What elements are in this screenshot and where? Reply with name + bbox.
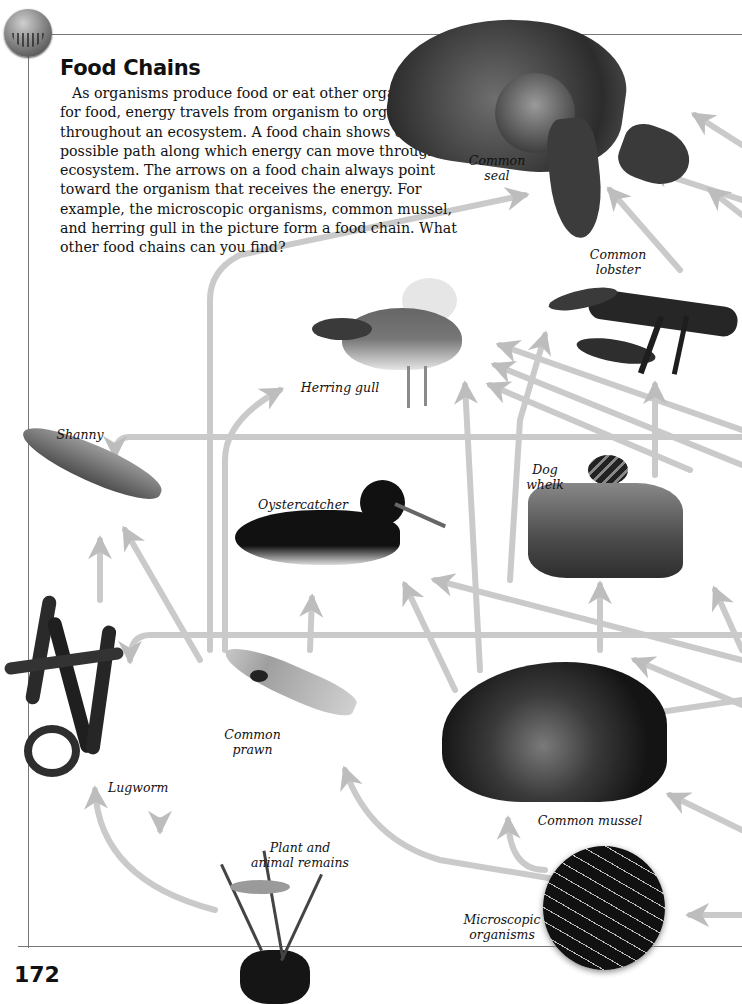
label-dog-whelk: Dogwhelk	[520, 462, 570, 492]
label-line: Common	[224, 727, 280, 742]
label-line: Common mussel	[538, 813, 642, 828]
label-line: animal remains	[251, 855, 349, 870]
label-line: Plant and	[270, 840, 330, 855]
label-herring-gull: Herring gull	[300, 380, 380, 395]
label-common-lobster: Commonlobster	[583, 247, 653, 277]
label-line: prawn	[232, 742, 272, 757]
label-line: whelk	[526, 477, 564, 492]
label-line: lobster	[596, 262, 640, 277]
label-lugworm: Lugworm	[108, 780, 168, 795]
label-common-mussel: Common mussel	[535, 813, 645, 828]
label-line: Lugworm	[108, 780, 168, 795]
label-oystercatcher: Oystercatcher	[258, 497, 348, 512]
label-line: Shanny	[56, 427, 103, 442]
oystercatcher-image	[235, 480, 445, 580]
label-line: Oystercatcher	[258, 497, 348, 512]
lugworm-image	[4, 595, 154, 775]
page-title: Food Chains	[60, 56, 201, 80]
label-line: Common	[590, 247, 646, 262]
label-line: organisms	[469, 927, 535, 942]
common-lobster-image	[548, 270, 742, 385]
label-line: Dog	[532, 462, 558, 477]
label-plant-animal-remains: Plant andanimal remains	[250, 840, 350, 870]
label-line: Herring gull	[301, 380, 379, 395]
label-line: seal	[484, 168, 509, 183]
herring-gull-image	[312, 278, 482, 420]
label-line: Microscopic	[463, 912, 540, 927]
label-common-prawn: Commonprawn	[220, 727, 285, 757]
label-shanny: Shanny	[55, 427, 105, 442]
common-seal-image	[390, 18, 690, 243]
page-number: 172	[14, 962, 60, 987]
common-prawn-image	[200, 640, 360, 730]
label-common-seal: Commonseal	[462, 153, 532, 183]
common-mussel-image	[442, 652, 667, 807]
label-microscopic-organisms: Microscopicorganisms	[462, 912, 542, 942]
microscopic-organisms-image	[543, 846, 665, 970]
label-line: Common	[469, 153, 525, 168]
